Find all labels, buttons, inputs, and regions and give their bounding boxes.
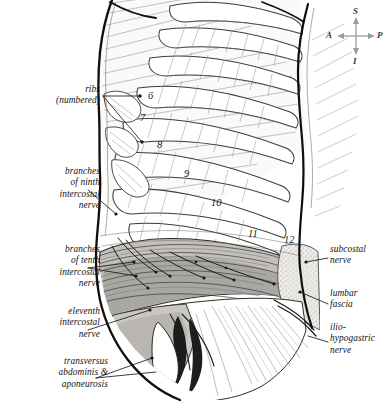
compass-anterior-label: A: [326, 30, 332, 40]
label-transversus-abdominis: transversus abdominis & aponeurosis: [8, 356, 108, 390]
rib-number-7: 7: [140, 112, 145, 123]
rib-number-12: 12: [284, 234, 295, 245]
compass-inferior-label: I: [353, 56, 357, 66]
compass-posterior-label: P: [377, 30, 383, 40]
rib-number-11: 11: [248, 228, 258, 239]
label-ninth-intercostal-nerve: branches of ninth intercostal nerve: [8, 166, 100, 212]
compass-superior-label: S: [353, 6, 358, 16]
label-iliohypogastric-nerve: ilio- hypogastric nerve: [330, 322, 388, 356]
label-ribs-numbered: ribs (numbered): [8, 84, 100, 107]
label-subcostal-nerve: subcostal nerve: [330, 244, 388, 267]
label-tenth-intercostal-nerve: branches of tenth intercostal nerve: [8, 244, 100, 290]
figure-canvas: 6 7 8 9 10 11 12 ribs (numbered) branche…: [0, 0, 388, 406]
rib-number-8: 8: [157, 139, 162, 150]
rib-number-6: 6: [148, 90, 153, 101]
label-eleventh-intercostal-nerve: eleventh intercostal nerve: [8, 306, 100, 340]
rib-number-9: 9: [184, 168, 189, 179]
rib-number-10: 10: [211, 197, 222, 208]
label-lumbar-fascia: lumbar fascia: [330, 288, 388, 311]
